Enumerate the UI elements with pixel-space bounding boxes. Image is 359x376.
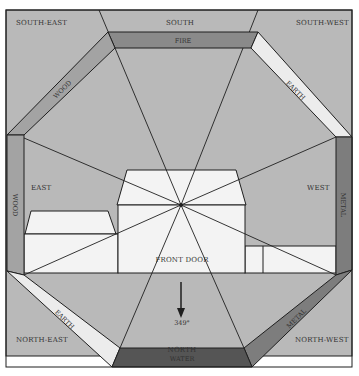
- element-fire: FIRE: [175, 37, 192, 45]
- front-door-label: FRONT DOOR: [155, 256, 209, 264]
- label-north-west: NORTH-WEST: [295, 336, 349, 344]
- label-south-west: SOUTH-WEST: [296, 19, 349, 27]
- element-wood-e: WOOD: [11, 194, 19, 217]
- label-east: EAST: [31, 184, 52, 192]
- label-west: WEST: [307, 184, 330, 192]
- element-metal-w: METAL: [339, 193, 347, 218]
- label-south: SOUTH: [166, 19, 194, 27]
- center-point: [179, 203, 183, 207]
- bagua-diagram: SOUTH-EAST SOUTH SOUTH-WEST EAST WEST NO…: [0, 0, 359, 376]
- bearing-label: 349°: [174, 319, 190, 327]
- left-house-roof: [25, 211, 116, 234]
- label-north-east: NORTH-EAST: [16, 336, 68, 344]
- label-north: NORTH: [168, 346, 197, 354]
- label-south-east: SOUTH-EAST: [16, 19, 67, 27]
- element-water: WATER: [170, 355, 196, 363]
- main-house-roof: [117, 170, 246, 205]
